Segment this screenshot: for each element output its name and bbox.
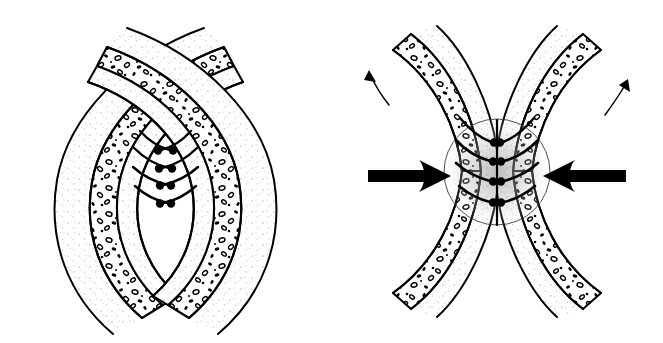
panel-b-illustration: [331, 0, 663, 343]
figure-root: A: [0, 0, 663, 343]
panel-a-illustration: [0, 0, 331, 343]
panel-b: B: [331, 0, 662, 343]
panel-a: A: [0, 0, 331, 343]
